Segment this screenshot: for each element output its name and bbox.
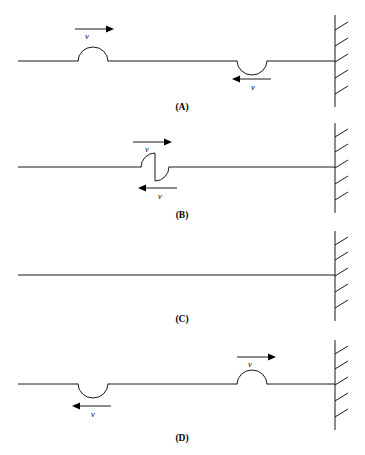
wall-hatch-mark xyxy=(335,284,348,292)
panel-d-left-velocity-arrow: v xyxy=(72,403,111,419)
panel-c-wall xyxy=(335,231,348,321)
wall-hatch-mark xyxy=(335,192,348,200)
velocity-label: v xyxy=(91,409,95,419)
wall-hatch-mark xyxy=(335,176,348,184)
crest-pulse-shape xyxy=(237,370,267,384)
trough-pulse-shape xyxy=(237,61,267,75)
velocity-label: v xyxy=(251,82,255,92)
wall-hatch-mark xyxy=(335,70,348,78)
panel-label-a: (A) xyxy=(175,102,188,113)
panel-a: v v (A) xyxy=(18,15,348,113)
panel-a-string xyxy=(18,47,335,75)
arrow-head-left-icon xyxy=(232,76,240,83)
wall-hatch-mark xyxy=(335,252,348,260)
wall-hatch-mark xyxy=(335,144,348,152)
panel-a-left-velocity-arrow: v xyxy=(75,26,114,41)
panel-b: v v (B) xyxy=(18,123,348,221)
arrow-head-left-icon xyxy=(72,403,80,410)
panel-d-string xyxy=(18,370,335,398)
wall-hatch-mark xyxy=(335,361,348,369)
wall-hatch-mark xyxy=(335,346,348,354)
wall-hatch-mark xyxy=(335,22,348,30)
wall-hatch-mark xyxy=(335,129,348,137)
velocity-label: v xyxy=(145,144,149,154)
arrow-head-right-icon xyxy=(106,26,114,33)
panel-a-right-velocity-arrow: v xyxy=(232,76,271,92)
wall-hatch-mark xyxy=(335,268,348,276)
panel-label-c: (C) xyxy=(175,314,188,325)
panel-d-wall xyxy=(335,340,348,430)
panel-b-top-velocity-arrow: v xyxy=(133,139,172,154)
wall-hatch-mark xyxy=(335,300,348,308)
panel-b-bottom-velocity-arrow: v xyxy=(138,185,177,201)
velocity-label: v xyxy=(85,31,89,41)
wall-hatch-mark xyxy=(335,409,348,417)
wall-hatch-mark xyxy=(335,393,348,401)
interference-s-shape xyxy=(141,153,169,181)
trough-pulse-shape xyxy=(78,384,108,398)
panel-c: (C) xyxy=(18,231,348,325)
wall-hatch-mark xyxy=(335,38,348,46)
panel-label-d: (D) xyxy=(175,433,188,444)
crest-pulse-shape xyxy=(78,47,108,61)
velocity-label: v xyxy=(248,359,252,369)
arrow-head-right-icon xyxy=(164,139,172,146)
wall-hatch-mark xyxy=(335,160,348,168)
panel-d: v v (D) xyxy=(18,340,348,444)
panel-a-wall xyxy=(335,15,348,107)
panel-b-wall xyxy=(335,123,348,213)
wall-hatch-mark xyxy=(335,377,348,385)
arrow-head-left-icon xyxy=(138,185,146,192)
panel-d-right-velocity-arrow: v xyxy=(237,354,276,369)
wall-hatch-mark xyxy=(335,54,348,62)
wall-hatch-mark xyxy=(335,86,348,94)
panel-label-b: (B) xyxy=(176,210,189,221)
wall-hatch-mark xyxy=(335,237,348,245)
panel-b-string xyxy=(18,153,335,181)
arrow-head-right-icon xyxy=(268,354,276,361)
wave-pulse-reflection-figure: v v (A) xyxy=(0,0,365,455)
velocity-label: v xyxy=(158,191,162,201)
